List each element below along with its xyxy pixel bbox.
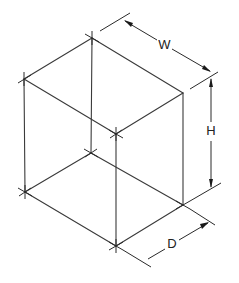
vertex-ticks [18, 31, 190, 253]
depth-dimension: D [123, 209, 215, 267]
depth-extension-line-right [190, 209, 215, 225]
height-label: H [206, 123, 215, 138]
edge-bottom-back-right [91, 153, 183, 205]
tick-bottom-front [109, 239, 123, 253]
edge-top-left-front [24, 79, 116, 134]
edge-bottom-left-front [25, 192, 116, 246]
tick-top-left [18, 72, 31, 86]
edge-bottom-back-left [25, 153, 91, 192]
width-label: W [158, 37, 171, 52]
height-arrow-bottom-icon [209, 179, 213, 188]
width-dimension: W [100, 13, 218, 89]
depth-extension-line-left [123, 250, 151, 267]
isometric-box-diagram: W H D [0, 0, 239, 283]
tick-top-front [109, 127, 123, 141]
depth-dimension-line-b [148, 249, 165, 259]
width-arrow-left-icon [124, 20, 133, 27]
edge-vertical-back [91, 38, 92, 153]
width-extension-line-left [100, 13, 130, 31]
edge-top-back-left [24, 38, 92, 79]
width-extension-line-right [190, 72, 218, 89]
height-extension-line-bottom [190, 183, 221, 201]
width-arrow-right-icon [202, 65, 211, 72]
depth-arrow-icon [200, 222, 209, 229]
height-arrow-top-icon [209, 78, 213, 87]
height-dimension: H [190, 78, 221, 201]
edge-vertical-left [24, 79, 25, 192]
edge-top-right-front [116, 93, 183, 134]
tick-bottom-left [18, 185, 32, 199]
tick-top-back [85, 31, 99, 45]
depth-label: D [167, 236, 176, 251]
box-edges [24, 38, 183, 246]
